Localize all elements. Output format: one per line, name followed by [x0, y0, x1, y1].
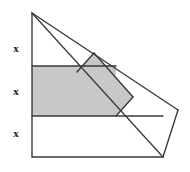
segment-label-middle: x [9, 86, 23, 97]
figure-canvas [0, 0, 190, 172]
segment-label-bottom: x [9, 128, 23, 139]
segment-label-top: x [9, 43, 23, 54]
right-wedge-edge [163, 110, 178, 157]
geometry-figure: x x x [0, 0, 190, 172]
